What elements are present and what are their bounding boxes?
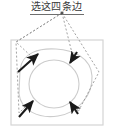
- outer-rectangle: [11, 40, 103, 125]
- diagram-canvas: [0, 0, 113, 136]
- leader-to-bottom-left: [16, 13, 62, 113]
- leader-convergence-point: [61, 12, 64, 15]
- arrow-top-left: [18, 54, 38, 72]
- diagram-screenshot: 选这四条边: [0, 0, 113, 136]
- arrow-top-right: [70, 52, 77, 63]
- arrow-bottom-left: [19, 101, 33, 117]
- leader-to-bottom-right: [62, 13, 99, 112]
- inner-circle: [29, 60, 79, 108]
